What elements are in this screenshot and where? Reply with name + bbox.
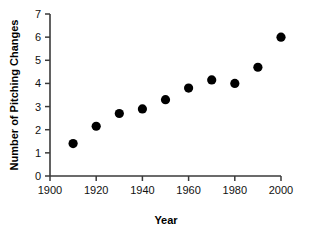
x-tick-label: 1960 — [176, 184, 200, 196]
data-point-series — [69, 33, 286, 149]
x-axis-title: Year — [154, 214, 178, 226]
y-tick-label: 5 — [35, 54, 41, 66]
y-tick-label: 0 — [35, 170, 41, 182]
data-point — [161, 95, 170, 104]
x-tick-label: 2000 — [269, 184, 293, 196]
x-tick-label: 1900 — [38, 184, 62, 196]
data-point — [92, 122, 101, 131]
y-tick-label: 1 — [35, 147, 41, 159]
x-tick-label: 1980 — [223, 184, 247, 196]
y-tick-label: 6 — [35, 31, 41, 43]
chart-canvas: 01234567 190019201940196019802000 Year N… — [0, 0, 310, 233]
data-point — [115, 109, 124, 118]
data-point — [207, 75, 216, 84]
x-axis-group: 190019201940196019802000 — [38, 176, 293, 196]
y-tick-label: 3 — [35, 101, 41, 113]
x-tick-label: 1940 — [130, 184, 154, 196]
data-point — [253, 63, 262, 72]
x-axis-tick-labels: 190019201940196019802000 — [38, 184, 293, 196]
data-point — [276, 33, 285, 42]
y-axis-tick-labels: 01234567 — [35, 8, 41, 182]
y-axis-group: 01234567 — [35, 8, 50, 182]
data-point — [69, 139, 78, 148]
scatter-chart: 01234567 190019201940196019802000 Year N… — [0, 0, 310, 233]
data-point — [184, 83, 193, 92]
x-tick-label: 1920 — [84, 184, 108, 196]
y-axis-title: Number of Pitching Changes — [8, 20, 20, 171]
y-tick-label: 7 — [35, 8, 41, 20]
data-point — [138, 104, 147, 113]
y-tick-label: 4 — [35, 77, 41, 89]
y-tick-label: 2 — [35, 124, 41, 136]
data-point — [230, 79, 239, 88]
